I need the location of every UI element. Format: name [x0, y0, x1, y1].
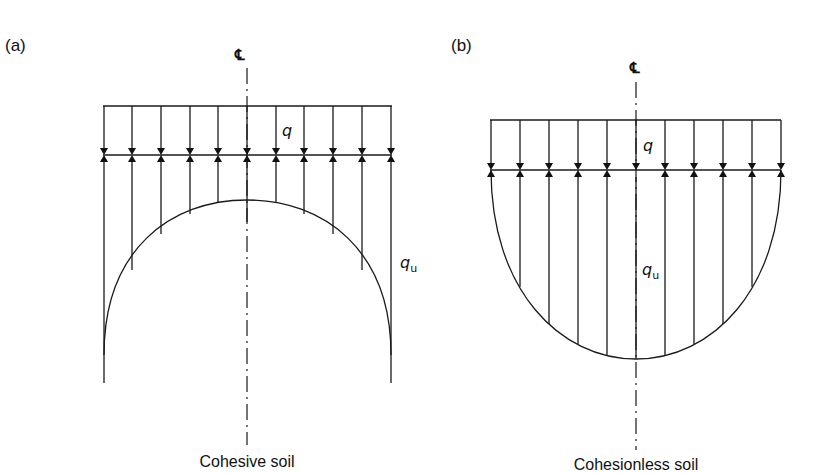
- panel-b: (b) ℄: [451, 36, 785, 473]
- surcharge-arrows-a: [100, 106, 395, 155]
- reaction-arrows-b: [487, 170, 785, 359]
- surcharge-arrows-b: [487, 120, 785, 170]
- surcharge-label-a: q: [282, 121, 292, 140]
- up-arrowhead-icon: [100, 155, 395, 162]
- pressure-label-a: qu: [400, 253, 417, 275]
- pressure-label-b: qu: [642, 260, 659, 282]
- centerline-symbol-b: ℄: [629, 59, 640, 77]
- surcharge-label-b: q: [643, 136, 653, 155]
- centerline-symbol-a: ℄: [234, 46, 245, 64]
- panel-a: (a) ℄: [5, 36, 417, 470]
- panel-a-label: (a): [5, 36, 26, 55]
- caption-a: Cohesive soil: [199, 453, 294, 470]
- down-arrowhead-icon: [487, 163, 785, 170]
- caption-b: Cohesionless soil: [574, 456, 699, 473]
- contact-pressure-diagram: (a) ℄: [0, 0, 827, 473]
- panel-b-label: (b): [451, 36, 472, 55]
- down-arrowhead-icon: [100, 148, 395, 155]
